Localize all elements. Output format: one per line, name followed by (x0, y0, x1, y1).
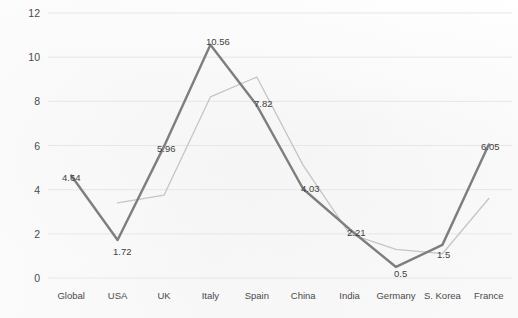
x-axis-tick-label: S. Korea (424, 290, 461, 301)
data-point-label: 1.5 (437, 249, 450, 260)
y-axis-tick-label: 6 (14, 140, 40, 152)
data-point-label: 2.21 (347, 227, 366, 238)
data-point-label: 4.64 (62, 172, 81, 183)
x-axis-tick-label: China (291, 290, 316, 301)
data-point-label: 4.03 (301, 183, 320, 194)
line-chart: 121086420 GlobalUSAUKItalySpainChinaIndi… (0, 0, 518, 318)
data-point-label: 1.72 (113, 246, 132, 257)
data-point-label: 0.5 (394, 268, 407, 279)
y-axis-tick-label: 4 (14, 184, 40, 196)
x-axis-tick-label: USA (108, 290, 128, 301)
x-axis-tick-label: Spain (245, 290, 269, 301)
x-axis-tick-label: Italy (202, 290, 219, 301)
y-axis-tick-label: 0 (14, 272, 40, 284)
x-axis-tick-label: France (474, 290, 504, 301)
x-axis-tick-label: India (339, 290, 360, 301)
x-axis-tick-label: Germany (376, 290, 415, 301)
y-axis-tick-label: 10 (14, 51, 40, 63)
data-point-label: 5.96 (157, 143, 176, 154)
data-point-label: 7.82 (254, 98, 273, 109)
data-point-label: 6.05 (481, 141, 500, 152)
y-axis-tick-label: 2 (14, 228, 40, 240)
series-line-series-secondary (118, 77, 489, 254)
y-axis-tick-label: 12 (14, 7, 40, 19)
plot-area (0, 0, 518, 318)
y-axis-tick-label: 8 (14, 95, 40, 107)
x-axis-tick-label: Global (57, 290, 84, 301)
x-axis-tick-label: UK (157, 290, 170, 301)
data-point-label: 10.56 (206, 36, 230, 47)
